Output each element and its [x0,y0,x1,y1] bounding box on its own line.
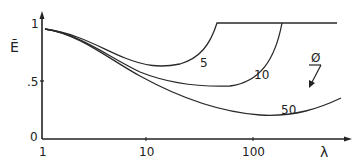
phi-label: Ø [311,51,320,65]
x-tick-label-10: 10 [139,145,154,159]
y-tick-label-1: 1 [31,17,39,31]
x-axis-arrow-icon [344,137,352,142]
y-axis-label: Ẽ [10,39,19,55]
y-tick-label-half: .5 [27,75,38,89]
x-tick-label-1: 1 [39,145,47,159]
y-tick-label-0: 0 [30,130,38,144]
phi-arrow-icon [311,65,321,84]
x-tick-label-100: 100 [242,145,265,159]
chart: 1 .5 0 1 10 100 Ẽ λ 5 10 50 Ø [0,0,361,166]
curve-10 [45,23,282,86]
y-axis-arrow-icon [40,11,45,19]
curve-label-5: 5 [200,56,208,70]
curve-label-10: 10 [254,68,269,82]
curve-label-50: 50 [281,103,296,117]
x-axis-label: λ [320,144,328,160]
